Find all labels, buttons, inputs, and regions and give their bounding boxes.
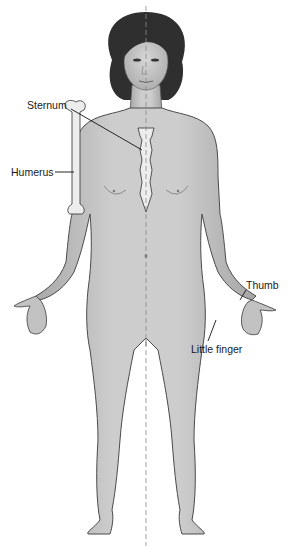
anatomical-figure — [0, 0, 293, 546]
little-finger-leader — [208, 320, 216, 341]
label-thumb: Thumb — [246, 280, 279, 291]
label-little-finger: Little finger — [191, 344, 242, 355]
label-humerus: Humerus — [11, 167, 54, 178]
left-hand-of-figure — [241, 300, 276, 335]
label-sternum: Sternum — [27, 100, 67, 111]
right-hand-of-figure — [14, 296, 47, 334]
